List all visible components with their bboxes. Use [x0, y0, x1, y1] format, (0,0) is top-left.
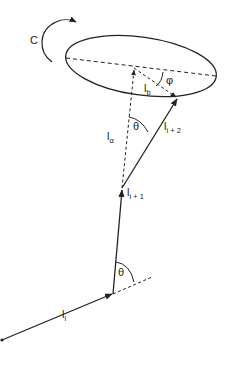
l-i-label: li: [62, 308, 66, 323]
vector-l-i-plus-1: [113, 190, 122, 294]
rotation-cone-ellipse: [62, 27, 221, 106]
phi-label: φ: [166, 74, 173, 86]
freely-jointed-chain-diagram: C φ lb lα li + 2 θ li + 1 θ li: [0, 0, 235, 367]
l-alpha-label: lα: [107, 130, 114, 145]
theta-top-label: θ: [133, 120, 139, 132]
chain-origin-point: [0, 338, 3, 341]
theta-bottom-label: θ: [118, 266, 124, 278]
l-i-plus-2-label: li + 2: [164, 120, 181, 135]
l-i-plus-1-label: li + 1: [127, 186, 144, 201]
vector-l-i: [2, 294, 112, 340]
l-i-extension-dashed: [113, 277, 152, 294]
ellipse-axis-dashed: [66, 58, 216, 76]
rotation-label: C: [30, 34, 38, 46]
rotation-arrow-icon: [42, 20, 76, 62]
l-b-label: lb: [144, 82, 151, 97]
vector-l-i-plus-2: [122, 99, 177, 188]
